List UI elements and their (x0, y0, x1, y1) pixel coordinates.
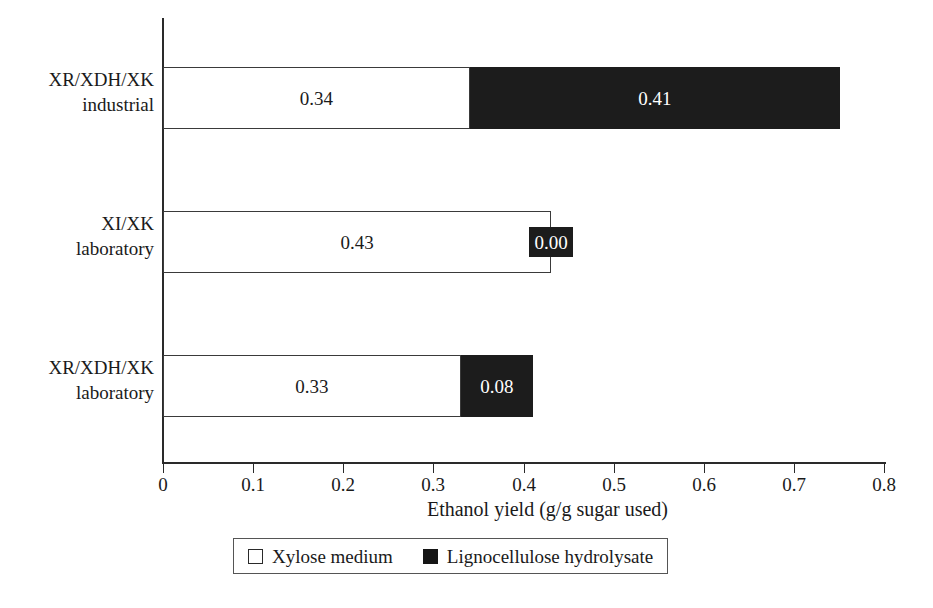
x-axis-title: Ethanol yield (g/g sugar used) (0, 498, 933, 521)
x-axis-title-text: Ethanol yield (g/g sugar used) (427, 498, 668, 521)
bar-segment-lignocellulose-hydrolysate-2[interactable]: 0.08 (461, 355, 533, 417)
legend-label-xylose-medium: Xylose medium (272, 547, 393, 566)
x-tick-8 (884, 464, 885, 473)
legend-item-lignocellulose-hydrolysate[interactable]: Lignocellulose hydrolysate (423, 547, 653, 566)
category-label-2: XR/XDH/XK laboratory (8, 356, 154, 405)
category-label-2-line1: XR/XDH/XK (8, 356, 154, 381)
x-tick-7 (794, 464, 795, 473)
x-tick-0 (163, 464, 164, 473)
x-tick-6 (704, 464, 705, 473)
category-label-2-line2: laboratory (8, 381, 154, 406)
x-tick-label-6: 0.6 (669, 474, 739, 496)
x-tick-label-1: 0.1 (218, 474, 288, 496)
bar-segment-xylose-medium-2[interactable]: 0.33 (163, 355, 461, 417)
x-tick-3 (433, 464, 434, 473)
bar-value-label-2-1: 0.08 (480, 377, 513, 396)
x-tick-label-0: 0 (128, 474, 198, 496)
bar-value-label-0-1: 0.41 (638, 89, 671, 108)
x-tick-label-2: 0.2 (308, 474, 378, 496)
chart-legend: Xylose medium Lignocellulose hydrolysate (233, 538, 668, 574)
category-label-0: XR/XDH/XK industrial (8, 68, 154, 117)
bar-segment-lignocellulose-hydrolysate-0[interactable]: 0.41 (470, 67, 840, 129)
bar-value-label-2-0: 0.33 (295, 377, 328, 396)
category-label-0-line2: industrial (8, 93, 154, 118)
bar-value-label-0-0: 0.34 (300, 89, 333, 108)
x-tick-label-3: 0.3 (398, 474, 468, 496)
legend-label-lignocellulose-hydrolysate: Lignocellulose hydrolysate (447, 547, 653, 566)
bar-segment-lignocellulose-hydrolysate-1[interactable]: 0.00 (529, 227, 573, 257)
bar-value-label-1-0: 0.43 (340, 233, 373, 252)
category-label-1-line2: laboratory (8, 237, 154, 262)
category-label-0-line1: XR/XDH/XK (8, 68, 154, 93)
x-tick-2 (343, 464, 344, 473)
filled-square-swatch-icon (423, 549, 438, 564)
x-tick-label-8: 0.8 (849, 474, 919, 496)
x-tick-4 (524, 464, 525, 473)
bar-value-label-1-1: 0.00 (534, 233, 567, 252)
x-tick-5 (614, 464, 615, 473)
legend-item-xylose-medium[interactable]: Xylose medium (248, 547, 393, 566)
x-tick-1 (253, 464, 254, 473)
x-tick-label-4: 0.4 (489, 474, 559, 496)
x-tick-label-7: 0.7 (759, 474, 829, 496)
category-label-1: XI/XK laboratory (8, 212, 154, 261)
category-label-1-line1: XI/XK (8, 212, 154, 237)
open-square-swatch-icon (248, 549, 263, 564)
x-tick-label-5: 0.5 (579, 474, 649, 496)
bar-segment-xylose-medium-0[interactable]: 0.34 (163, 67, 470, 129)
stacked-bar-chart: 0 0.1 0.2 0.3 0.4 0.5 0.6 0.7 0.8 XR/XDH… (0, 0, 933, 608)
bar-segment-xylose-medium-1[interactable]: 0.43 (163, 211, 551, 273)
